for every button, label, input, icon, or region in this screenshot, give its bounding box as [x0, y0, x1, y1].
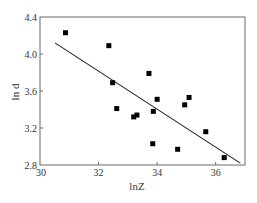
- square-marker: [182, 102, 187, 107]
- square-marker: [150, 141, 155, 146]
- x-tick-label: 30: [36, 167, 46, 178]
- data-points: [63, 30, 227, 160]
- square-marker: [63, 30, 68, 35]
- y-tick-label: 4.4: [25, 12, 38, 23]
- regression-line: [55, 43, 240, 163]
- plot-border: [40, 17, 245, 165]
- x-axis-ticks: 30323436: [36, 162, 221, 178]
- square-marker: [155, 97, 160, 102]
- square-marker: [106, 43, 111, 48]
- square-marker: [203, 129, 208, 134]
- fit-line-segment: [55, 43, 240, 163]
- square-marker: [134, 113, 139, 118]
- square-marker: [146, 71, 151, 76]
- x-tick-label: 36: [211, 167, 221, 178]
- x-axis-label: lnZ: [129, 180, 145, 192]
- y-tick-label: 3.2: [25, 123, 38, 134]
- scatter-chart: 2.83.23.64.04.4 30323436 lnZ ln d: [0, 0, 257, 203]
- y-axis-label: ln d: [9, 83, 21, 100]
- square-marker: [175, 147, 180, 152]
- x-tick-label: 34: [152, 167, 162, 178]
- y-tick-label: 4.0: [25, 49, 38, 60]
- y-tick-label: 3.6: [25, 86, 38, 97]
- square-marker: [110, 80, 115, 85]
- square-marker: [114, 106, 119, 111]
- square-marker: [222, 155, 227, 160]
- x-tick-label: 32: [94, 167, 104, 178]
- plot-frame: [40, 17, 245, 165]
- square-marker: [151, 109, 156, 114]
- square-marker: [187, 95, 192, 100]
